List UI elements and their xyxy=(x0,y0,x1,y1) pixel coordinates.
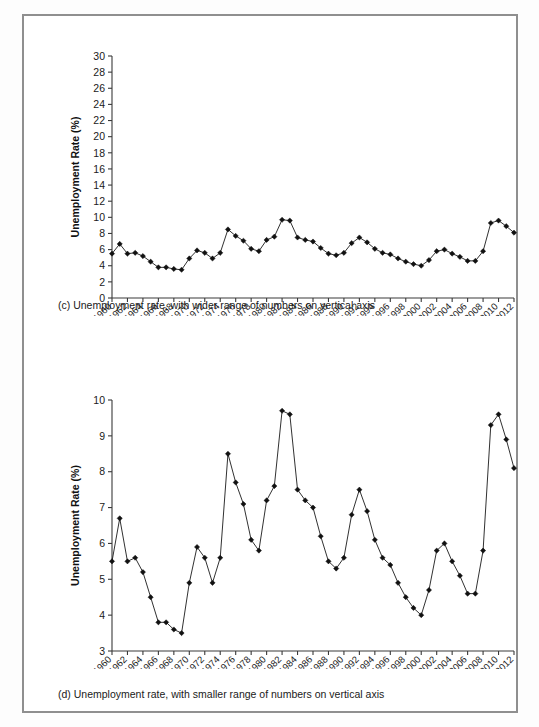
series-group-d xyxy=(109,408,516,636)
data-point-marker xyxy=(480,548,485,553)
data-point-marker xyxy=(295,235,300,240)
y-tick-label: 4 xyxy=(99,609,105,621)
data-point-marker xyxy=(411,262,416,267)
chart-c-svg: 0246810121416182022242628301960196219641… xyxy=(24,16,520,316)
axes-group-c: 0246810121416182022242628301960196219641… xyxy=(69,50,515,316)
data-point-marker xyxy=(488,220,493,225)
data-point-marker xyxy=(225,451,230,456)
data-point-marker xyxy=(109,559,114,564)
data-point-marker xyxy=(287,412,292,417)
data-point-marker xyxy=(133,250,138,255)
series-group-c xyxy=(109,217,516,272)
data-point-marker xyxy=(256,249,261,254)
data-point-marker xyxy=(457,254,462,259)
chart-panel-d: 3456789101960196219641966196819701972197… xyxy=(24,359,520,669)
y-tick-label: 22 xyxy=(93,114,105,126)
data-point-marker xyxy=(272,483,277,488)
y-tick-label: 28 xyxy=(93,66,105,78)
y-tick-label: 14 xyxy=(93,179,105,191)
data-point-marker xyxy=(241,501,246,506)
data-point-marker xyxy=(187,580,192,585)
data-point-marker xyxy=(511,466,516,471)
y-tick-label: 16 xyxy=(93,163,105,175)
data-point-marker xyxy=(465,591,470,596)
y-tick-label: 18 xyxy=(93,147,105,159)
data-point-marker xyxy=(171,266,176,271)
y-tick-label: 8 xyxy=(99,465,105,477)
data-point-marker xyxy=(349,512,354,517)
y-tick-label: 26 xyxy=(93,82,105,94)
y-tick-label: 6 xyxy=(99,537,105,549)
y-tick-label: 2 xyxy=(99,276,105,288)
data-point-marker xyxy=(388,252,393,257)
data-point-marker xyxy=(380,250,385,255)
data-point-marker xyxy=(334,253,339,258)
data-point-marker xyxy=(279,217,284,222)
data-point-marker xyxy=(450,559,455,564)
y-tick-label: 9 xyxy=(99,430,105,442)
data-point-marker xyxy=(156,620,161,625)
data-point-marker xyxy=(473,591,478,596)
y-tick-label: 6 xyxy=(99,243,105,255)
figure-page: 0246810121416182022242628301960196219641… xyxy=(0,0,539,727)
page-frame: 0246810121416182022242628301960196219641… xyxy=(22,14,518,713)
y-tick-label: 4 xyxy=(99,259,105,271)
data-point-marker xyxy=(264,237,269,242)
data-point-marker xyxy=(125,559,130,564)
data-point-marker xyxy=(117,516,122,521)
data-point-marker xyxy=(148,595,153,600)
y-tick-label: 20 xyxy=(93,130,105,142)
data-point-marker xyxy=(357,487,362,492)
data-point-marker xyxy=(426,587,431,592)
data-point-marker xyxy=(233,480,238,485)
y-tick-label: 12 xyxy=(93,195,105,207)
data-point-marker xyxy=(372,537,377,542)
chart-d-svg: 3456789101960196219641966196819701972197… xyxy=(24,359,520,669)
y-tick-label: 10 xyxy=(93,394,105,406)
y-tick-label: 24 xyxy=(93,98,105,110)
y-tick-label: 8 xyxy=(99,227,105,239)
data-point-marker xyxy=(287,218,292,223)
data-point-marker xyxy=(210,580,215,585)
data-point-marker xyxy=(303,237,308,242)
data-point-marker xyxy=(133,555,138,560)
data-point-marker xyxy=(318,534,323,539)
data-point-marker xyxy=(395,256,400,261)
data-point-marker xyxy=(442,247,447,252)
data-point-marker xyxy=(264,498,269,503)
data-point-marker xyxy=(457,573,462,578)
data-point-marker xyxy=(395,580,400,585)
data-point-marker xyxy=(140,570,145,575)
data-point-marker xyxy=(465,258,470,263)
data-point-marker xyxy=(450,251,455,256)
series-line xyxy=(112,411,514,633)
y-tick-label: 7 xyxy=(99,501,105,513)
series-line xyxy=(112,220,514,270)
y-tick-label: 5 xyxy=(99,573,105,585)
data-point-marker xyxy=(164,265,169,270)
data-point-marker xyxy=(365,509,370,514)
data-point-marker xyxy=(279,408,284,413)
y-axis-title: Unemployment Rate (%) xyxy=(69,465,81,586)
data-point-marker xyxy=(179,630,184,635)
data-point-marker xyxy=(179,267,184,272)
y-axis-title: Unemployment Rate (%) xyxy=(69,117,81,238)
data-point-marker xyxy=(504,437,509,442)
y-tick-label: 10 xyxy=(93,211,105,223)
data-point-marker xyxy=(272,234,277,239)
data-point-marker xyxy=(403,259,408,264)
caption-panel-d: (d) Unemployment rate, with smaller rang… xyxy=(58,688,384,700)
caption-panel-c: (c) Unemployment rate, with wider range … xyxy=(58,299,375,311)
y-tick-label: 30 xyxy=(93,50,105,62)
chart-panel-c: 0246810121416182022242628301960196219641… xyxy=(24,16,520,316)
data-point-marker xyxy=(218,555,223,560)
